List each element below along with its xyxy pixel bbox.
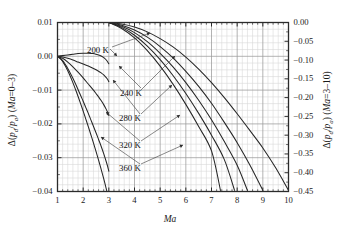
x-axis-tick-label: 6 (174, 195, 198, 205)
y-axis-right-tick-label: −0.25 (294, 111, 326, 121)
curve-label-360-k: 360 K (119, 163, 141, 173)
chart-figure: Δ(pd/pa) (Ma=0–3) Δ(pd/pa) (Ma=3–10) Ma … (0, 0, 340, 238)
y-axis-right-tick-label: −0.05 (294, 36, 326, 46)
x-axis-tick-label: 8 (225, 195, 249, 205)
x-axis-tick-label: 1 (46, 195, 70, 205)
x-axis-tick-label: 4 (123, 195, 147, 205)
x-axis-tick-label: 7 (200, 195, 224, 205)
y-axis-right-tick-label: 0.00 (294, 17, 326, 27)
y-axis-right-tick-label: −0.10 (294, 55, 326, 65)
y-axis-right-tick-label: −0.15 (294, 73, 326, 83)
curve-label-240-k: 240 K (120, 88, 142, 98)
curve-label-320-k: 320 K (119, 140, 141, 150)
curve-label-200-k: 200 K (87, 45, 109, 55)
x-axis-tick-label: 10 (277, 195, 301, 205)
x-axis-tick-label: 3 (97, 195, 121, 205)
x-axis-tick-label: 2 (71, 195, 95, 205)
y-axis-right-tick-label: −0.40 (294, 167, 326, 177)
y-axis-left-title: Δ(pd/pa) (Ma=0–3) (7, 50, 19, 170)
y-axis-right-tick-label: −0.35 (294, 148, 326, 158)
x-axis-tick-label: 5 (148, 195, 172, 205)
y-axis-left-tick-label: −0.03 (21, 152, 53, 162)
curve-label-280-k: 280 K (119, 113, 141, 123)
y-axis-left-tick-label: −0.02 (21, 118, 53, 128)
y-axis-left-tick-label: 0.00 (21, 51, 53, 61)
y-axis-right-tick-label: −0.20 (294, 92, 326, 102)
x-axis-title: Ma (0, 214, 340, 224)
y-axis-right-tick-label: −0.30 (294, 130, 326, 140)
y-axis-left-tick-label: 0.01 (21, 17, 53, 27)
y-axis-left-tick-label: −0.01 (21, 85, 53, 95)
x-axis-tick-label: 9 (251, 195, 275, 205)
